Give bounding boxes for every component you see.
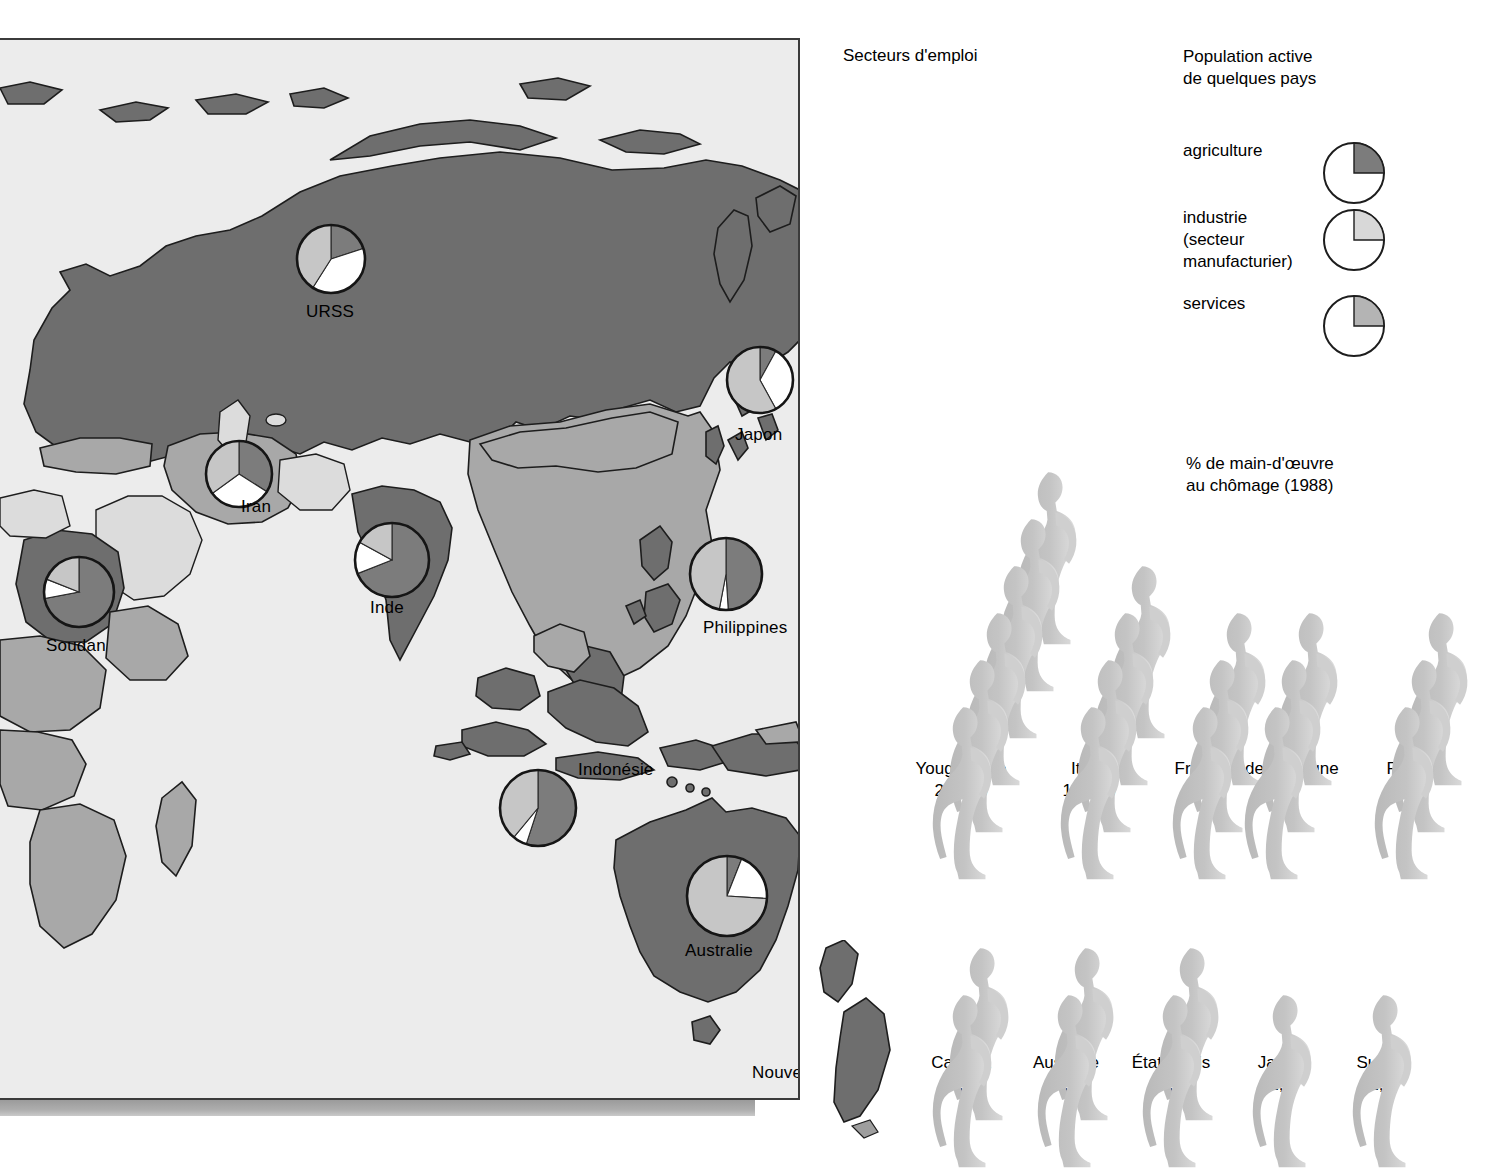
unemployment-figure-icon <box>1242 700 1304 884</box>
unemployment-figure-icon <box>1058 700 1120 884</box>
unemployment-figure-icon <box>1170 700 1232 884</box>
unemployment-figure-icon <box>1350 988 1412 1172</box>
unemployment-figure-icon <box>1140 988 1202 1172</box>
unemployment-figure-icon <box>930 700 992 884</box>
unemployment-figure-icon <box>1035 988 1097 1172</box>
unemployment-figure-icon <box>1372 700 1434 884</box>
unemployment-figure-icon <box>1250 988 1312 1172</box>
unemployment-figure-icon <box>930 988 992 1172</box>
